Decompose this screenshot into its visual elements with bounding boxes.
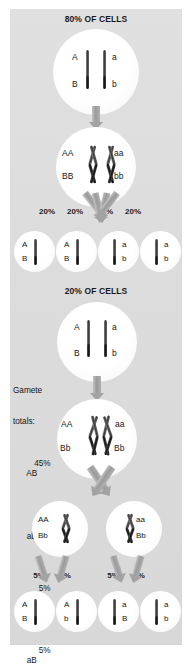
label-parent-bottom-A: A bbox=[74, 322, 80, 332]
label-gamete-bottom-3-B: B bbox=[122, 614, 127, 623]
diagram-panel: 80% OF CELLS A B a b AA BB aa bb bbox=[10, 9, 182, 645]
label-crossover-AA: AA bbox=[61, 419, 72, 429]
label-meiosis-top-BB: BB bbox=[62, 171, 73, 181]
label-gamete-top-2-A: A bbox=[64, 240, 69, 249]
gamete-totals-row-4: 5% aB bbox=[13, 636, 51, 667]
gamete-totals-title-1: Gamete bbox=[13, 386, 51, 396]
gamete-totals-genotype-4: aB bbox=[27, 656, 37, 665]
cell-parent-top: A B a b bbox=[53, 29, 139, 115]
cell-gamete-top-1: A B bbox=[14, 231, 55, 272]
cell-daughter-left: AA Bb bbox=[32, 501, 88, 557]
label-crossover-Bb: Bb bbox=[60, 443, 70, 453]
label-parent-bottom-b: b bbox=[112, 348, 117, 358]
cell-gamete-bottom-3: a B bbox=[98, 591, 139, 632]
label-gamete-bottom-3-a: a bbox=[122, 600, 126, 609]
label-daughter-right-aa: aa bbox=[136, 515, 145, 524]
label-gamete-bottom-4-b: b bbox=[164, 614, 168, 623]
label-daughter-left-Bb: Bb bbox=[38, 531, 48, 540]
label-parent-top-a: a bbox=[112, 52, 117, 62]
label-parent-bottom-a: a bbox=[112, 322, 117, 332]
label-daughter-left-AA: AA bbox=[38, 515, 49, 524]
cell-gamete-bottom-4: a b bbox=[140, 591, 181, 632]
label-parent-bottom-B: B bbox=[74, 348, 80, 358]
cell-gamete-bottom-1: A B bbox=[14, 591, 55, 632]
percent-label-top-2: 20% bbox=[62, 207, 88, 216]
label-parent-top-B: B bbox=[72, 79, 78, 89]
label-crossover-aa: aa bbox=[115, 419, 124, 429]
label-gamete-top-4-a: a bbox=[164, 240, 168, 249]
label-gamete-top-1-A: A bbox=[22, 240, 27, 249]
arrow-gamete-bottom-2 bbox=[52, 554, 73, 585]
label-gamete-top-3-a: a bbox=[122, 240, 126, 249]
label-gamete-bottom-2-A: A bbox=[64, 600, 69, 609]
label-gamete-bottom-4-a: a bbox=[164, 600, 168, 609]
label-daughter-right-Bb: Bb bbox=[136, 531, 146, 540]
label-meiosis-top-bb: bb bbox=[114, 171, 123, 181]
heading-20-percent: 20% OF CELLS bbox=[10, 286, 182, 296]
arrow-gamete-bottom-4 bbox=[127, 554, 148, 585]
cell-gamete-top-2: A B bbox=[56, 231, 97, 272]
label-gamete-bottom-1-A: A bbox=[22, 600, 27, 609]
gamete-totals-percent-4: 5% bbox=[27, 646, 51, 656]
label-parent-top-A: A bbox=[72, 52, 78, 62]
label-meiosis-top-AA: AA bbox=[62, 148, 73, 158]
label-gamete-top-3-b: b bbox=[122, 254, 126, 263]
cell-gamete-top-4: a b bbox=[140, 231, 181, 272]
cell-gamete-top-3: a b bbox=[98, 231, 139, 272]
label-gamete-bottom-1-B: B bbox=[22, 614, 27, 623]
label-meiosis-top-aa: aa bbox=[114, 148, 123, 158]
cell-parent-bottom: A B a b bbox=[57, 302, 137, 382]
label-gamete-top-2-B: B bbox=[64, 254, 69, 263]
percent-label-top-1: 20% bbox=[34, 207, 60, 216]
label-crossover-Bb2: Bb bbox=[114, 443, 124, 453]
arrow-gamete-bottom-3 bbox=[106, 554, 128, 585]
percent-label-top-4: 20% bbox=[120, 207, 146, 216]
gamete-totals-percent-1: 45% bbox=[27, 459, 51, 469]
gamete-totals-genotype-1: AB bbox=[26, 469, 37, 478]
label-parent-top-b: b bbox=[112, 79, 117, 89]
heading-80-percent: 80% OF CELLS bbox=[10, 14, 182, 24]
cell-gamete-bottom-2: A b bbox=[56, 591, 97, 632]
cell-daughter-right: aa Bb bbox=[106, 501, 162, 557]
gamete-totals-title-2: totals: bbox=[13, 417, 51, 427]
gamete-totals-row-1: 45% AB bbox=[13, 448, 51, 490]
label-gamete-bottom-2-b: b bbox=[64, 614, 68, 623]
label-gamete-top-1-B: B bbox=[22, 254, 27, 263]
label-gamete-top-4-b: b bbox=[164, 254, 168, 263]
